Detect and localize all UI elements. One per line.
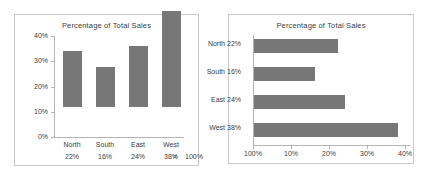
column-chart-panel: Percentage of Total Sales 40% 30% 20% 10… [14,14,199,166]
x-tick-0 [253,146,254,149]
x-tick-10 [291,146,292,149]
chart-canvas: Percentage of Total Sales 40% 30% 20% 10… [0,0,427,180]
y-tick-40 [51,36,54,37]
category-value-south: 16% [88,153,122,160]
y-axis-line [54,36,55,137]
x-axis-label-30: 30% [350,150,384,157]
y-tick-10 [51,112,54,113]
x-axis-label-40: 40% [388,150,422,157]
row-value-east: 24% [227,96,247,103]
column-bar-south [96,67,115,107]
category-value-east: 24% [121,153,155,160]
y-axis-label-0: 0% [18,133,48,140]
category-value-west: 38% [154,153,188,160]
row-label-south: South [195,68,225,75]
category-label-east: East [121,141,155,148]
y-axis-label-30: 30% [18,57,48,64]
bar-chart-panel: Percentage of Total Sales 100% 10% 20% 3… [228,14,414,164]
category-label-west: West [154,141,188,148]
row-value-south: 16% [227,68,247,75]
y-tick-20 [51,87,54,88]
column-bar-west [162,11,181,107]
category-value-north: 22% [55,153,89,160]
column-bar-east [129,46,148,107]
x-axis-label-10: 10% [274,150,308,157]
row-value-west: 38% [227,124,247,131]
bar-north [254,39,338,53]
category-label-south: South [88,141,122,148]
row-value-north: 22% [227,40,247,47]
x-tick-40 [405,146,406,149]
x-tick-20 [329,146,330,149]
total-equals-sign: = [173,153,177,160]
row-label-west: West [195,124,225,131]
x-axis-line [54,137,184,138]
bar-south [254,67,315,81]
category-label-north: North [55,141,89,148]
bar-east [254,95,345,109]
column-chart-plot: 40% 30% 20% 10% 0% North South East West… [15,15,198,165]
column-bar-north [63,51,82,107]
y-axis-label-40: 40% [18,32,48,39]
x-tick-30 [367,146,368,149]
row-label-east: East [195,96,225,103]
x-axis-label-0: 100% [236,150,270,157]
y-tick-30 [51,61,54,62]
y-tick-0 [51,137,54,138]
bar-west [254,123,398,137]
row-label-north: North [195,40,225,47]
total-value: 100% [185,153,203,160]
x-axis-label-20: 20% [312,150,346,157]
bar-chart-title: Percentage of Total Sales [229,21,413,30]
value-axis-line [253,145,410,146]
y-axis-label-20: 20% [18,83,48,90]
y-axis-label-10: 10% [18,108,48,115]
